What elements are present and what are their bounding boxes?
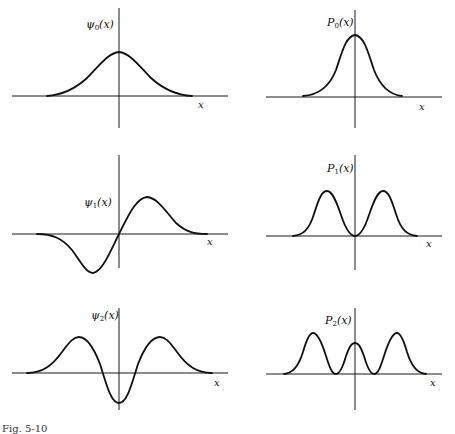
P0-label: P0(x) xyxy=(326,16,354,30)
panel-P2: P2(x) x xyxy=(266,308,442,410)
panel-P1: P1(x) x xyxy=(266,155,442,270)
panel-P0: P0(x) x xyxy=(266,10,442,128)
figure-caption: Fig. 5-10 xyxy=(2,423,47,434)
panel-psi2: ψ2(x) x xyxy=(12,308,228,410)
x-axis-label: x xyxy=(214,377,220,388)
x-axis-label: x xyxy=(419,101,425,112)
panel-psi1: ψ1(x) x xyxy=(12,155,228,273)
panel-psi0: ψ0(x) x xyxy=(12,8,228,128)
x-axis-label: x xyxy=(430,377,436,388)
psi0-label: ψ0(x) xyxy=(86,18,114,32)
x-axis-label: x xyxy=(198,99,204,110)
P0-curve xyxy=(303,35,402,96)
psi2-label: ψ2(x) xyxy=(91,309,119,323)
psi1-label: ψ1(x) xyxy=(84,196,112,210)
P1-label: P1(x) xyxy=(326,162,354,176)
x-axis-label: x xyxy=(207,236,213,247)
P2-label: P2(x) xyxy=(324,314,352,328)
x-axis-label: x xyxy=(426,238,432,249)
psi1-curve xyxy=(37,197,207,273)
